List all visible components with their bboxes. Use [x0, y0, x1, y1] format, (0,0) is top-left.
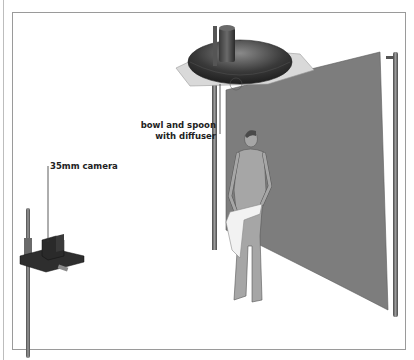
bowl-label-line2: with diffuser	[120, 131, 216, 142]
backdrop-pole-right	[386, 52, 398, 317]
setup-illustration	[0, 0, 414, 360]
camera-label: 35mm camera	[50, 161, 118, 172]
bowl-label-line1: bowl and spoon	[120, 120, 216, 131]
backdrop-pole-left	[212, 70, 217, 250]
spoon-cylinder	[213, 25, 235, 66]
camera-body	[42, 234, 64, 260]
camera-label-text: 35mm camera	[50, 161, 118, 171]
camera-stand	[24, 208, 32, 358]
bowl-label: bowl and spoon with diffuser	[120, 120, 216, 142]
